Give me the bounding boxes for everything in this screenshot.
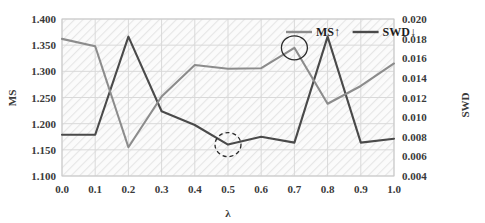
left-axis-tick-label: 1.200 [31, 118, 56, 130]
right-axis-tick-label: 0.006 [402, 150, 427, 162]
x-axis-tick-label: 0.8 [321, 183, 335, 195]
right-axis-title: SWD [459, 92, 471, 117]
x-axis-tick-label: 0.2 [122, 183, 136, 195]
left-axis-tick-label: 1.300 [31, 65, 56, 77]
x-axis-tick-label: 0.5 [221, 183, 235, 195]
left-axis-tick-label: 1.400 [31, 13, 56, 25]
x-axis-tick-label: 0.4 [188, 183, 202, 195]
chart-container: 1.1001.1501.2001.2501.3001.3501.400 0.00… [0, 0, 485, 223]
left-axis-tick-label: 1.150 [31, 144, 56, 156]
x-axis-tick-label: 1.0 [387, 183, 401, 195]
x-axis-title: λ [225, 207, 231, 219]
x-axis-tick-label: 0.3 [155, 183, 169, 195]
x-axis-tick-label: 0.0 [55, 183, 69, 195]
legend-label: SWD↓ [383, 25, 416, 39]
x-axis-tick-label: 0.7 [288, 183, 302, 195]
left-axis-title: MS [6, 90, 18, 107]
right-axis-tick-label: 0.016 [402, 52, 427, 64]
right-axis-tick-label: 0.010 [402, 111, 427, 123]
legend-label: MS↑ [316, 25, 340, 39]
x-axis-tick-label: 0.9 [354, 183, 368, 195]
right-axis-tick-label: 0.012 [402, 92, 427, 104]
right-axis-tick-label: 0.008 [402, 131, 427, 143]
left-axis-tick-label: 1.100 [31, 170, 56, 182]
right-axis-tick-label: 0.004 [402, 170, 427, 182]
right-axis-tick-label: 0.020 [402, 13, 427, 25]
left-axis-tick-label: 1.350 [31, 39, 56, 51]
right-axis-tick-label: 0.014 [402, 72, 427, 84]
dual-axis-line-chart: 1.1001.1501.2001.2501.3001.3501.400 0.00… [0, 0, 485, 223]
x-axis-tick-label: 0.6 [254, 183, 268, 195]
left-axis-tick-label: 1.250 [31, 92, 56, 104]
x-axis-tick-label: 0.1 [88, 183, 102, 195]
